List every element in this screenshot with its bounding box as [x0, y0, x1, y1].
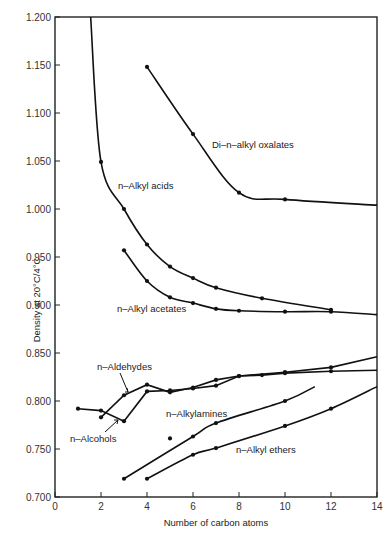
data-point — [214, 378, 218, 382]
data-point — [214, 286, 218, 290]
data-point — [329, 369, 333, 373]
data-point — [145, 389, 149, 393]
data-point — [237, 309, 241, 313]
data-point — [191, 386, 195, 390]
data-point — [214, 384, 218, 388]
data-point — [76, 407, 80, 411]
x-axis-label: Number of carbon atoms — [164, 517, 269, 528]
data-point — [260, 373, 264, 377]
data-point — [214, 307, 218, 311]
data-point — [237, 191, 241, 195]
x-tick-label: 2 — [98, 501, 104, 512]
data-point — [283, 399, 287, 403]
y-tick-label: 1.100 — [26, 108, 51, 119]
data-point — [191, 301, 195, 305]
series-line — [147, 67, 377, 205]
series-label: n–Alkyl acids — [118, 180, 174, 191]
data-point — [122, 393, 126, 397]
density-chart: 024681012140.7000.7500.8000.8500.9000.95… — [0, 0, 389, 533]
data-point — [145, 383, 149, 387]
y-axis-label: Density at 20°C/4°C — [31, 258, 42, 343]
y-tick-label: 0.800 — [26, 396, 51, 407]
data-point — [191, 434, 195, 438]
data-point — [214, 421, 218, 425]
x-tick-label: 14 — [371, 501, 383, 512]
data-point — [168, 436, 172, 440]
x-tick-label: 10 — [279, 501, 291, 512]
data-point — [283, 371, 287, 375]
data-point — [168, 295, 172, 299]
y-tick-label: 1.000 — [26, 204, 51, 215]
data-point — [237, 374, 241, 378]
data-point — [260, 296, 264, 300]
data-point — [122, 419, 126, 423]
data-point — [283, 424, 287, 428]
data-point — [329, 310, 333, 314]
x-tick-label: 6 — [190, 501, 196, 512]
data-point — [99, 409, 103, 413]
data-point — [122, 477, 126, 481]
series-label: n–Alcohols — [70, 433, 117, 444]
y-tick-label: 0.750 — [26, 444, 51, 455]
data-point — [214, 446, 218, 450]
series-label: n–Aldehydes — [97, 361, 152, 372]
data-point — [145, 65, 149, 69]
x-tick-label: 8 — [236, 501, 242, 512]
data-point — [122, 248, 126, 252]
series-label: n–Alkyl acetates — [117, 303, 186, 314]
data-point — [329, 365, 333, 369]
data-point — [283, 197, 287, 201]
data-point — [329, 407, 333, 411]
y-tick-label: 0.700 — [26, 492, 51, 503]
data-point — [168, 265, 172, 269]
series-label: Di–n–alkyl oxalates — [212, 139, 294, 150]
alcohols-leader-arrow — [105, 420, 118, 432]
data-point — [191, 276, 195, 280]
series-line — [91, 17, 331, 310]
x-tick-label: 12 — [325, 501, 337, 512]
y-tick-label: 1.150 — [26, 60, 51, 71]
y-tick-label: 1.200 — [26, 12, 51, 23]
series-label: n–Alkylamines — [166, 408, 227, 419]
data-point — [145, 477, 149, 481]
data-point — [122, 207, 126, 211]
data-point — [145, 279, 149, 283]
series-line — [147, 387, 377, 479]
data-point — [191, 453, 195, 457]
data-point — [145, 242, 149, 246]
data-point — [99, 415, 103, 419]
y-tick-label: 1.050 — [26, 156, 51, 167]
data-point — [191, 132, 195, 136]
series-label: n–Alkyl ethers — [236, 444, 296, 455]
y-tick-label: 0.850 — [26, 348, 51, 359]
data-point — [168, 388, 172, 392]
data-point — [283, 310, 287, 314]
x-tick-label: 0 — [52, 501, 58, 512]
x-tick-label: 4 — [144, 501, 150, 512]
data-point — [99, 160, 103, 164]
